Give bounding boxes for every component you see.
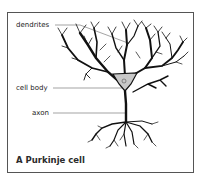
figure-caption: A Purkinje cell (16, 155, 85, 165)
axon-label: axon (32, 109, 49, 117)
cell-body-shape (113, 73, 137, 91)
dendrites-label: dendrites (16, 21, 49, 29)
cell-body-label: cell body (16, 84, 48, 92)
axon-arbor (88, 91, 158, 148)
dendrites-leader-line (55, 25, 128, 43)
